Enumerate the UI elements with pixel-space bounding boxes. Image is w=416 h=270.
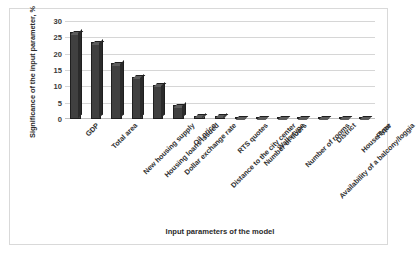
bar[interactable] [215, 116, 226, 119]
plot-area [65, 21, 375, 119]
bar-slot [148, 85, 169, 119]
x-axis-tick-label: District [334, 121, 358, 145]
bar-slot [313, 117, 334, 119]
bar-slot [251, 117, 272, 119]
x-axis-title: Input parameters of the model [65, 227, 375, 236]
bar[interactable] [153, 85, 164, 119]
bar[interactable] [91, 42, 102, 119]
bar[interactable] [297, 117, 308, 119]
bar[interactable] [194, 116, 205, 119]
bar[interactable] [132, 77, 143, 119]
chart-frame: Significance of the input parameter, % 3… [9, 8, 388, 245]
bar-slot [334, 117, 355, 119]
x-axis-tick-label: Total area [110, 121, 140, 151]
bar-slot [106, 63, 127, 119]
bar-slot [230, 117, 251, 119]
bar[interactable] [235, 117, 246, 119]
y-axis-tick-label: 0 [42, 115, 62, 124]
y-axis-tick-label: 25 [42, 33, 62, 42]
y-axis-tick-label: 15 [42, 66, 62, 75]
bar-slot [127, 77, 148, 119]
bar[interactable] [256, 117, 267, 119]
bar-series [65, 21, 375, 119]
x-axis-category-labels: GDPTotal areaNew housing supplyHousing l… [65, 121, 375, 231]
bar-slot [354, 117, 375, 119]
bar-slot [168, 105, 189, 119]
bar[interactable] [359, 117, 370, 119]
y-axis-tick-labels: 302520151050 [42, 21, 62, 119]
bar[interactable] [277, 117, 288, 119]
y-axis-title: Significance of the input parameter, % [28, 2, 42, 142]
y-axis-tick-label: 10 [42, 82, 62, 91]
y-axis-tick-label: 30 [42, 17, 62, 26]
bar[interactable] [339, 117, 350, 119]
y-axis-tick-label: 20 [42, 49, 62, 58]
bar-slot [210, 116, 231, 119]
bar-slot [65, 32, 86, 119]
bar[interactable] [173, 105, 184, 119]
bar[interactable] [111, 63, 122, 119]
bar-slot [292, 117, 313, 119]
bar[interactable] [70, 32, 81, 119]
bar-slot [86, 42, 107, 119]
x-axis-tick-label: GDP [84, 121, 101, 138]
y-axis-tick-label: 5 [42, 98, 62, 107]
bar-slot [189, 116, 210, 119]
bar[interactable] [318, 117, 329, 119]
bar-slot [272, 117, 293, 119]
